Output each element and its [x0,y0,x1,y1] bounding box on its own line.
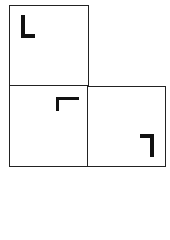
cell-bottom-right [87,86,166,167]
